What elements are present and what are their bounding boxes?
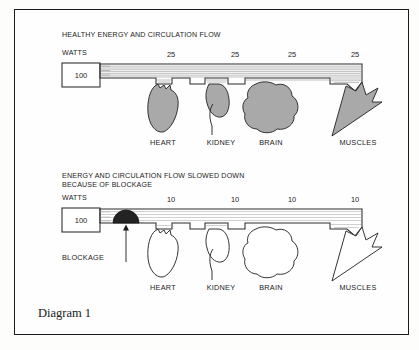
blocked-muscles-shape [332, 227, 382, 281]
blocked-heart-shape [148, 229, 178, 277]
healthy-brain-label: BRAIN [259, 138, 283, 147]
panel-blocked-title-line2: BECAUSE OF BLOCKAGE [62, 181, 152, 189]
healthy-heart-shape [148, 84, 178, 132]
blockage-label: BLOCKAGE [62, 253, 104, 262]
healthy-watts-brain: 25 [288, 50, 296, 59]
healthy-watts-heart: 25 [167, 50, 175, 59]
panel-blocked-units-label: WATTS [62, 194, 87, 202]
healthy-muscles-shape [332, 82, 382, 136]
blocked-watts-brain: 10 [288, 195, 296, 204]
blocked-watts-kidney: 10 [231, 195, 239, 204]
panel-healthy-title: HEALTHY ENERGY AND CIRCULATION FLOW [62, 31, 221, 39]
panel-blocked-title-line1: ENERGY AND CIRCULATION FLOW SLOWED DOWN [62, 172, 245, 180]
blocked-muscles-label: MUSCLES [339, 283, 376, 292]
healthy-muscles-label: MUSCLES [339, 138, 376, 147]
healthy-kidney-label: KIDNEY [207, 138, 236, 147]
healthy-kidney-shape [206, 84, 229, 117]
blocked-source-value: 100 [75, 216, 88, 225]
blocked-watts-muscles: 10 [351, 195, 359, 204]
panel-healthy-units-label: WATTS [62, 49, 87, 57]
healthy-branch-stubs [157, 80, 329, 82]
diagram-artwork: HEALTHY ENERGY AND CIRCULATION FLOW WATT… [0, 0, 419, 350]
blockage-dome [113, 210, 139, 223]
healthy-source-neck-hatch [100, 66, 110, 75]
figure-caption: Diagram 1 [38, 306, 91, 320]
blocked-brain-label: BRAIN [259, 283, 283, 292]
blocked-kidney-label: KIDNEY [207, 283, 236, 292]
blocked-heart-label: HEART [150, 283, 176, 292]
blocked-brain-shape [243, 227, 298, 278]
blocked-kidney-shape [206, 229, 229, 262]
healthy-watts-muscles: 25 [351, 50, 359, 59]
blocked-pipe-hatching [101, 212, 361, 228]
healthy-source-value: 100 [75, 71, 88, 80]
blockage-arrow-head [123, 225, 129, 231]
diagram-page: HEALTHY ENERGY AND CIRCULATION FLOW WATT… [0, 0, 419, 350]
blocked-watts-heart: 10 [167, 195, 175, 204]
healthy-watts-kidney: 25 [231, 50, 239, 59]
blocked-source-neck-hatch [100, 212, 110, 221]
healthy-brain-shape [243, 82, 298, 133]
healthy-heart-label: HEART [150, 138, 176, 147]
